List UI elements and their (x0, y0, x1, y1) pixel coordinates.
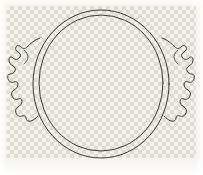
outer-rim-circle (33, 10, 169, 158)
right-handle-inner-contour (174, 50, 178, 64)
vessel-line-art (0, 0, 203, 175)
right-handle (162, 38, 194, 121)
inner-rim-circle (39, 15, 163, 151)
left-handle-inner-contour (24, 50, 28, 64)
left-handle (8, 38, 40, 121)
drawing-canvas (0, 0, 203, 175)
